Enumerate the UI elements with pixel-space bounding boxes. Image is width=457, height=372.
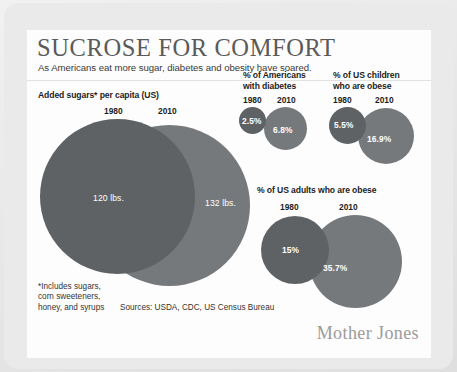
value-sugar-2010: 132 lbs. — [205, 198, 236, 208]
year-label-sugar-1980: 1980 — [104, 106, 123, 116]
year-label-diabetes-1980: 1980 — [243, 95, 262, 105]
infographic-card: SUCROSE FOR COMFORT As Americans eat mor… — [27, 30, 431, 358]
page-title: SUCROSE FOR COMFORT — [37, 34, 336, 62]
year-label-children-1980: 1980 — [333, 95, 352, 105]
value-children-2010: 16.9% — [367, 134, 391, 144]
footnote: *Includes sugars, corn sweeteners, honey… — [38, 282, 104, 313]
value-diabetes-1980: 2.5% — [242, 116, 262, 126]
infographic-stage: SUCROSE FOR COMFORT As Americans eat mor… — [0, 0, 457, 372]
year-label-adults-1980: 1980 — [280, 202, 299, 212]
value-adults-1980: 15% — [282, 245, 299, 255]
year-label-diabetes-2010: 2010 — [277, 95, 296, 105]
value-sugar-1980: 120 lbs. — [93, 193, 124, 203]
panel-title-sugar: Added sugars* per capita (US) — [38, 90, 159, 101]
panel-title-children: % of US children who are obese — [333, 70, 400, 91]
value-diabetes-2010: 6.8% — [273, 125, 293, 135]
value-children-1980: 5.5% — [334, 120, 354, 130]
value-adults-2010: 35.7% — [323, 263, 347, 273]
year-label-adults-2010: 2010 — [339, 202, 358, 212]
year-label-children-2010: 2010 — [375, 95, 394, 105]
mother-jones-logo: Mother Jones — [317, 323, 419, 344]
year-label-sugar-2010: 2010 — [158, 106, 177, 116]
panel-title-diabetes: % of Americans with diabetes — [243, 70, 306, 91]
sources-line: Sources: USDA, CDC, US Census Bureau — [120, 303, 274, 312]
panel-title-adults: % of US adults who are obese — [257, 185, 376, 196]
